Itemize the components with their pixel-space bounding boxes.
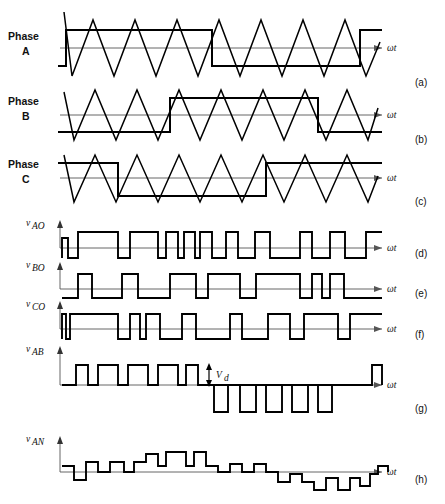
phase-a-label-letter: A [22, 45, 30, 57]
panel-id-c: (c) [415, 196, 427, 207]
van-label-sub: AN [31, 437, 45, 447]
panel-id-h: (h) [415, 474, 427, 485]
pwm-waveform-figure: Phase A ωt (a) Phase B ωt (b) Phase C ωt… [0, 0, 445, 504]
phase-a-label-name: Phase [8, 30, 39, 42]
panel-phase-a: Phase A ωt (a) [8, 12, 427, 88]
vco-waveform [62, 314, 382, 339]
vbo-label: v [26, 260, 31, 270]
vd-label: V [216, 370, 223, 380]
vao-label-sub: AO [31, 221, 45, 231]
panel-phase-c: Phase C ωt (c) [8, 155, 427, 207]
axis-label-a: ωt [387, 43, 397, 53]
phase-b-label-name: Phase [8, 95, 39, 107]
panel-id-e: (e) [415, 288, 427, 299]
van-yaxis-arrow [57, 436, 63, 444]
vab-label-sub: AB [31, 347, 44, 357]
axis-label-b: ωt [387, 110, 397, 120]
vd-label-sub: d [224, 373, 229, 383]
vab-label: v [26, 344, 31, 354]
panel-id-d: (d) [415, 248, 427, 259]
vab-yaxis-arrow [57, 346, 63, 354]
panel-id-g: (g) [415, 403, 427, 414]
panel-vao: v AO ωt (d) [26, 218, 427, 259]
panel-id-f: (f) [415, 329, 424, 340]
panel-phase-b: Phase B ωt (b) [8, 90, 427, 145]
axis-arrow-e [374, 286, 382, 292]
panel-vco: v CO ωt (f) [26, 299, 424, 340]
van-waveform [62, 452, 388, 490]
axis-arrow-f [374, 326, 382, 332]
vao-yaxis-arrow [57, 220, 63, 228]
phase-c-label-letter: C [22, 173, 30, 185]
panel-van: v AN ωt (h) [26, 434, 427, 490]
axis-label-c: ωt [387, 173, 397, 183]
vd-amplitude-marker: V d [206, 363, 229, 387]
axis-label-e: ωt [387, 284, 397, 294]
vco-yaxis-arrow [57, 301, 63, 309]
axis-label-f: ωt [387, 324, 397, 334]
axis-arrow-g [374, 382, 382, 388]
axis-label-d: ωt [387, 243, 397, 253]
vd-arrow-up [206, 363, 212, 370]
panel-vbo: v BO ωt (e) [26, 260, 427, 299]
vco-label: v [26, 299, 31, 309]
phase-b-label-letter: B [22, 110, 30, 122]
vbo-yaxis-arrow [57, 262, 63, 270]
phase-c-label-name: Phase [8, 158, 39, 170]
vbo-label-sub: BO [32, 263, 45, 273]
vbo-waveform [62, 274, 382, 298]
panel-vab: v AB ωt V d (g) [26, 344, 427, 414]
vao-waveform [62, 232, 382, 258]
panel-id-a: (a) [415, 77, 427, 88]
axis-arrow-d [374, 245, 382, 251]
van-label: v [26, 434, 31, 444]
axis-label-g: ωt [387, 380, 397, 390]
vco-label-sub: CO [32, 302, 45, 312]
panel-id-b: (b) [415, 134, 427, 145]
vao-label: v [26, 218, 31, 228]
